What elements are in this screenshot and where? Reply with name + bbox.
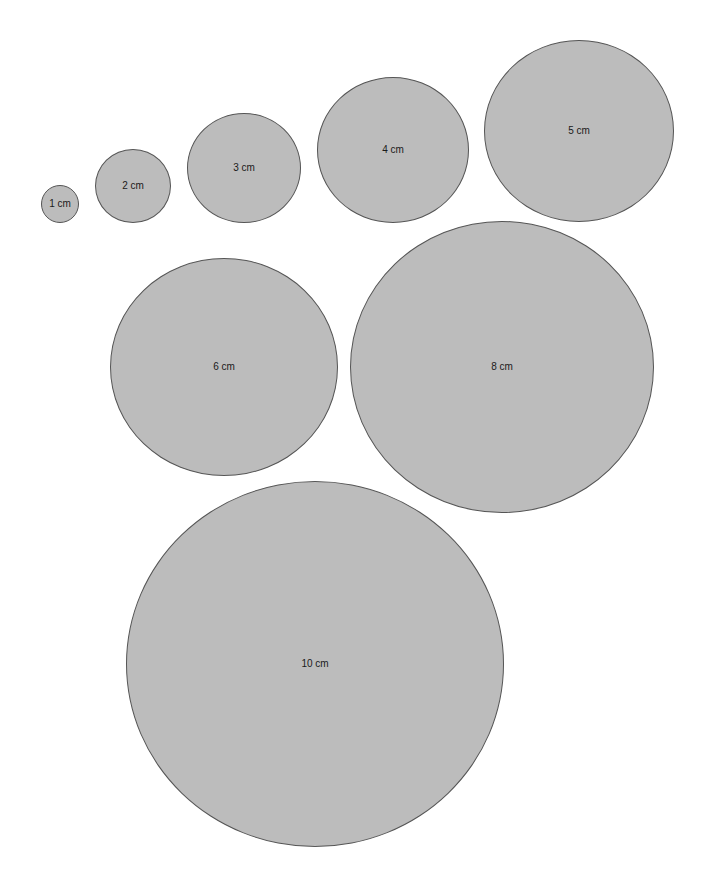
circle-10cm: 10 cm xyxy=(126,481,504,847)
circle-label: 6 cm xyxy=(213,362,235,372)
circle-5cm: 5 cm xyxy=(484,40,674,222)
circle-label: 1 cm xyxy=(49,199,71,209)
circle-size-diagram: 1 cm 2 cm 3 cm 4 cm 5 cm 6 cm 8 cm 10 cm xyxy=(0,0,709,884)
circle-1cm: 1 cm xyxy=(41,185,79,223)
circle-4cm: 4 cm xyxy=(317,77,469,223)
circle-8cm: 8 cm xyxy=(350,221,654,513)
circle-label: 4 cm xyxy=(382,145,404,155)
circle-label: 8 cm xyxy=(491,362,513,372)
circle-label: 3 cm xyxy=(233,163,255,173)
circle-label: 10 cm xyxy=(301,659,328,669)
circle-2cm: 2 cm xyxy=(95,149,171,223)
circle-label: 2 cm xyxy=(122,181,144,191)
circle-6cm: 6 cm xyxy=(110,258,338,476)
circle-3cm: 3 cm xyxy=(187,113,301,223)
circle-label: 5 cm xyxy=(568,126,590,136)
